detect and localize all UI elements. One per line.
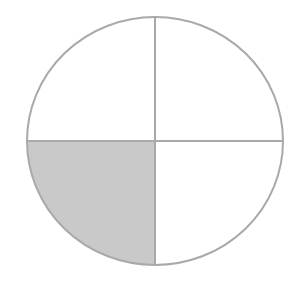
fraction-circle-svg	[0, 0, 306, 283]
shaded-quadrant-bottom-left	[27, 141, 155, 265]
fraction-circle-diagram	[0, 0, 306, 283]
